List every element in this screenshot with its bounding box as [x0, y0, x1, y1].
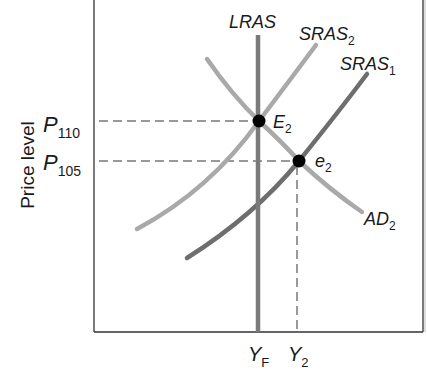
ad-as-diagram: Price level P110 P105 YF Y2 LRAS SRAS2 S… [0, 0, 427, 376]
point-label-E2: E2 [273, 112, 292, 136]
x-tick-yf: YF [248, 343, 269, 370]
guide-lines [99, 121, 297, 332]
y-tick-p110: P110 [43, 112, 80, 141]
y-tick-p105: P105 [43, 150, 81, 179]
x-tick-y2: Y2 [288, 343, 309, 370]
y-axis-label: Price level [17, 121, 38, 209]
equilibrium-point-e2 [293, 155, 306, 168]
point-label-e2: e2 [315, 151, 332, 175]
ad2-label: AD2 [363, 209, 396, 233]
sras1-curve [187, 74, 367, 258]
equilibrium-point-E2 [253, 115, 266, 128]
sras2-curve [137, 45, 316, 229]
lras-label: LRAS [229, 12, 276, 32]
sras2-label: SRAS2 [299, 24, 355, 48]
